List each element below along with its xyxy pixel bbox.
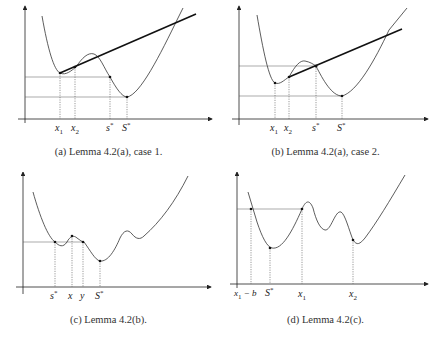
label-x1-minus-b: x1 − b bbox=[234, 288, 257, 301]
tangent-line bbox=[60, 14, 196, 73]
label-S-star: S* bbox=[95, 289, 104, 301]
caption-b: (b) Lemma 4.2(a), case 2. bbox=[217, 146, 434, 157]
tangent-line bbox=[289, 29, 402, 77]
panel-c: s* x y S* (c) Lemma 4.2(b). bbox=[0, 172, 217, 344]
label-S-star: S* bbox=[122, 121, 131, 133]
cost-curve bbox=[257, 8, 407, 96]
cost-curve bbox=[33, 176, 188, 261]
label-S-star: S* bbox=[265, 286, 274, 298]
caption-c: (c) Lemma 4.2(b). bbox=[0, 314, 217, 325]
caption-a: (a) Lemma 4.2(a), case 1. bbox=[0, 146, 217, 157]
label-s-star: s* bbox=[106, 121, 113, 133]
label-x1: x1 bbox=[298, 288, 306, 302]
label-x1: x1 bbox=[55, 122, 63, 136]
panel-b: x1 x2 s* S* (b) Lemma 4.2(a), case 2. bbox=[217, 0, 434, 172]
label-x2: x2 bbox=[284, 122, 292, 136]
cost-curve bbox=[248, 175, 405, 248]
panel-d: x1 − b S* x1 x2 (d) Lemma 4.2(c). bbox=[217, 172, 434, 344]
caption-d: (d) Lemma 4.2(c). bbox=[217, 314, 434, 325]
label-s-star: s* bbox=[50, 289, 57, 301]
label-x2: x2 bbox=[71, 122, 79, 136]
label-x: x bbox=[68, 290, 72, 301]
label-y: y bbox=[80, 290, 84, 301]
panel-a: x1 x2 s* S* (a) Lemma 4.2(a), case 1. bbox=[0, 0, 217, 172]
label-x2: x2 bbox=[349, 288, 357, 302]
label-s-star: s* bbox=[312, 121, 319, 133]
label-x1: x1 bbox=[270, 122, 278, 136]
label-S-star: S* bbox=[337, 121, 346, 133]
cost-curve bbox=[42, 8, 183, 97]
